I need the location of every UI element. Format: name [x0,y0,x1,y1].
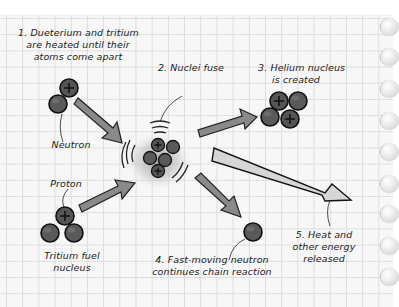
energy-arrow-icon [212,148,351,201]
step-1-line-1: 1. Dueterium and tritium [18,27,138,39]
helium-nucleus [261,92,307,128]
step-5-label: 5. Heat and other energy released [290,229,358,265]
step-4-line-1: 4. Fast-moving neutron [150,254,274,266]
proton-callout: Proton [46,178,86,190]
tritium-nucleus [41,207,83,242]
step-1-label: 1. Dueterium and tritium are heated unti… [18,27,138,63]
arrow-icon [79,180,135,212]
step-5-line-1: 5. Heat and [290,229,358,241]
proton-leader-line [63,189,68,207]
step-5-line-3: released [290,253,358,265]
fast-neutron-particle [244,223,262,241]
neutron-leader-line [60,114,63,142]
step-1-line-2: are heated until their [18,39,138,51]
energy-leader-line [328,200,331,226]
step-5-line-2: other energy [290,241,358,253]
fuse-leader-line [160,96,182,122]
step-1-line-3: atoms come apart [18,51,138,63]
arrow-icon [195,173,241,217]
arrow-icon [198,109,257,137]
neutron-callout: Neutron [46,139,96,151]
step-2-line-1: 2. Nuclei fuse [156,62,226,74]
step-4-label: 4. Fast-moving neutron continues chain r… [150,254,274,278]
proton-plus-icon [60,79,78,97]
step-2-label: 2. Nuclei fuse [156,62,226,74]
step-3-line-1: 3. Helium nucleus [258,62,334,74]
neutron-particle [49,95,67,113]
step-4-line-2: continues chain reaction [150,266,274,278]
arrow-icon [74,98,122,143]
tritium-callout: Tritium fuel nucleus [40,250,104,274]
deuterium-nucleus [49,79,78,113]
step-3-line-2: is created [258,74,334,86]
step-3-label: 3. Helium nucleus is created [258,62,334,86]
